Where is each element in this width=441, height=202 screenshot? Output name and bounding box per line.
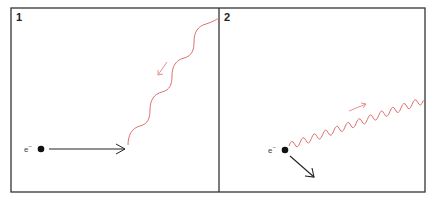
electron-charge: − — [28, 143, 32, 149]
compton-diagram: 1 2 e− e− — [0, 0, 441, 202]
diagram-canvas — [0, 0, 441, 202]
electron-dot — [38, 146, 45, 153]
incoming-photon-wave — [128, 18, 219, 145]
panel-1 — [38, 18, 219, 154]
scattered-photon-wave — [289, 100, 423, 147]
electron-motion-arrow-icon — [49, 144, 125, 154]
scattered-photon-direction-arrow-icon — [349, 103, 366, 111]
panel-1-number: 1 — [16, 11, 22, 23]
electron-recoil-arrow-icon — [290, 156, 314, 177]
electron-label-panel-1: e− — [24, 143, 32, 154]
electron-dot — [282, 147, 289, 154]
photon-direction-arrow-icon — [158, 62, 167, 75]
panel-2 — [282, 100, 424, 177]
electron-label-panel-2: e− — [268, 144, 276, 155]
electron-charge: − — [272, 144, 276, 150]
panel-2-number: 2 — [224, 11, 230, 23]
outer-frame — [11, 8, 425, 192]
